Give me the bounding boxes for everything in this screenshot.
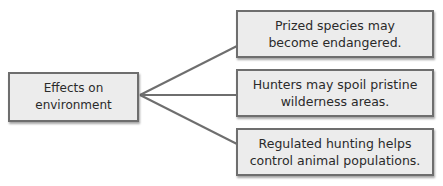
branch-node-prized-species: Prized species may become endangered.	[236, 10, 434, 58]
root-node-effects-on-environment: Effects on environment	[8, 72, 139, 122]
branch-node-label: Regulated hunting helps control animal p…	[250, 135, 421, 169]
branch-node-label: Hunters may spoil pristine wilderness ar…	[253, 76, 418, 110]
branch-node-hunters-spoil: Hunters may spoil pristine wilderness ar…	[236, 69, 434, 117]
branch-node-label: Prized species may become endangered.	[268, 17, 401, 51]
root-node-label: Effects on environment	[35, 80, 111, 114]
connector-to-branch-3	[140, 95, 237, 144]
branch-node-regulated-hunting: Regulated hunting helps control animal p…	[236, 128, 434, 176]
connector-to-branch-1	[140, 46, 237, 95]
